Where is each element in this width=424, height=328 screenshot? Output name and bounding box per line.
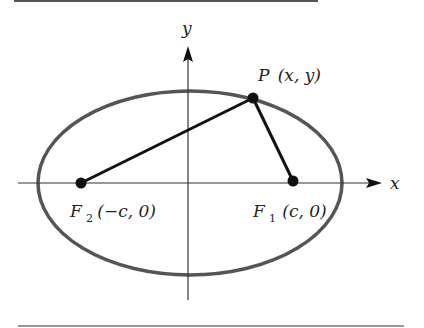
point-f2 [76, 178, 87, 189]
label-f2: F 2 (−c, 0) [69, 201, 156, 226]
point-f1 [288, 176, 299, 187]
label-f2-coords: (−c, 0) [97, 201, 156, 221]
label-f1: F 1 (c, 0) [252, 201, 327, 226]
point-p [248, 93, 259, 104]
label-p: P (x, y) [257, 65, 321, 85]
label-f1-sub: 1 [269, 212, 276, 225]
segment-f2-p [81, 98, 253, 183]
x-axis-label: x [390, 173, 400, 193]
label-f1-coords: (c, 0) [282, 201, 326, 221]
label-f1-name: F [252, 201, 266, 221]
label-f2-name: F [69, 201, 83, 221]
label-f2-sub: 2 [86, 212, 93, 225]
ellipse-diagram: x y P (x, y) F 2 (−c, 0) F 1 (c, 0) [0, 0, 424, 328]
y-axis-label: y [181, 18, 192, 38]
label-p-name: P [257, 65, 270, 85]
label-p-coords: (x, y) [278, 65, 321, 85]
